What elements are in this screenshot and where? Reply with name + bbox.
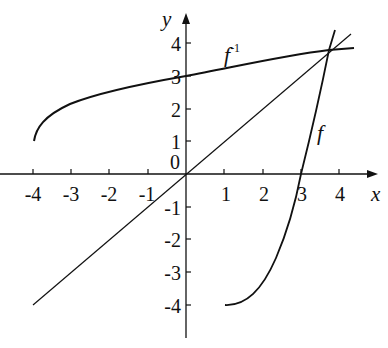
y-tick-label: -4 — [164, 295, 181, 317]
y-tick-label: -3 — [164, 262, 181, 284]
x-tick-label: -3 — [63, 183, 80, 205]
x-tick-label: 1 — [221, 183, 231, 205]
function-label: f — [317, 120, 326, 145]
y-axis-label: y — [160, 7, 172, 31]
function-inverse-plot: -4 -3 -2 -1 1 2 3 4 4 3 2 1 -1 -2 -3 -4 … — [0, 0, 388, 348]
y-tick-labels: 4 3 2 1 -1 -2 -3 -4 — [164, 33, 181, 317]
inverse-function-label: f-1 — [224, 41, 240, 67]
x-tick-label: -1 — [139, 183, 156, 205]
x-tick-label: -4 — [25, 183, 42, 205]
x-axis-arrow-icon — [367, 170, 378, 178]
axes — [0, 20, 372, 338]
y-tick-label: 2 — [171, 99, 181, 121]
x-tick-label: 4 — [335, 183, 345, 205]
y-tick-label: -2 — [164, 229, 181, 251]
y-tick-label: 4 — [171, 33, 181, 55]
inverse-function-curve — [34, 48, 354, 141]
y-tick-label: 1 — [171, 131, 181, 153]
origin-label: 0 — [170, 151, 180, 173]
y-tick-label: -1 — [164, 197, 181, 219]
x-tick-label: 2 — [259, 183, 269, 205]
x-axis-label: x — [370, 182, 381, 206]
y-axis-arrow-icon — [182, 13, 190, 24]
function-curve — [225, 30, 335, 305]
x-tick-label: -2 — [101, 183, 118, 205]
